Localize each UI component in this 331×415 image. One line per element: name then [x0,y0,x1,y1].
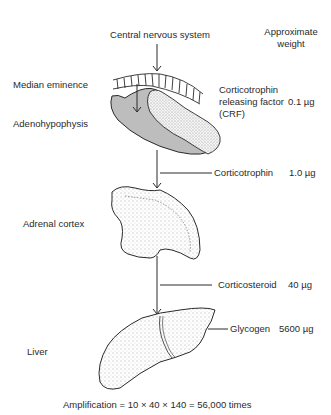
adenohypophysis-drawing [111,84,220,154]
product-glycogen: Glycogen [230,323,270,335]
source-label: Central nervous system [110,29,210,41]
adrenal-cortex-drawing [112,187,200,259]
liver-drawing [99,308,228,389]
corticosteroid-arrow [153,256,212,314]
product-corticosteroid: Corticosteroid [218,279,277,291]
weight-heading-line2: weight [256,38,326,50]
corticotrophin-arrow [153,150,212,188]
product-crf-line2: releasing factor [219,96,284,108]
organ-label-median-eminence: Median eminence [13,79,88,91]
cascade-artwork [0,0,331,415]
weight-heading-line1: Approximate [256,26,326,38]
weight-heading: Approximate weight [256,26,326,50]
weight-corticosteroid: 40 µg [288,279,312,291]
organ-label-adenohypophysis: Adenohypophysis [13,118,88,130]
product-corticotrophin: Corticotrophin [214,167,273,179]
cns-arrow [153,44,161,71]
weight-corticotrophin: 1.0 µg [289,167,316,179]
product-crf-line1: Corticotrophin [219,84,284,96]
amplification-caption: Amplification = 10 × 40 × 140 = 56,000 t… [63,399,252,411]
weight-crf: 0.1 µg [288,96,315,108]
product-crf-line3: (CRF) [219,108,284,120]
organ-label-adrenal-cortex: Adrenal cortex [23,218,84,230]
weight-glycogen: 5600 µg [279,323,314,335]
product-crf: Corticotrophin releasing factor (CRF) [219,84,284,120]
organ-label-liver: Liver [27,346,48,358]
